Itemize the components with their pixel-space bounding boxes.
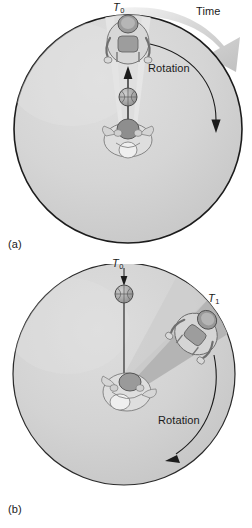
panel-b-caption: (b) [8, 504, 22, 515]
label-rotation-panel-a: Rotation [148, 63, 190, 74]
figure-root: T0 Time Rotation (a) [0, 0, 252, 528]
panel-a-graphic [0, 0, 252, 264]
label-rotation-panel-b: Rotation [158, 415, 200, 426]
label-t1-panel-b: T1 [208, 293, 219, 304]
panel-a-caption: (a) [8, 239, 22, 250]
disk-shading-icon [6, 278, 130, 374]
basketball-icon [119, 88, 137, 106]
basketball-icon [115, 285, 133, 303]
label-t0-panel-a: T0 [113, 2, 124, 13]
panel-a: T0 Time Rotation (a) [0, 0, 252, 264]
label-t0-panel-b: T0 [112, 258, 123, 269]
label-time: Time [196, 6, 220, 17]
panel-b: T0 T1 Rotation (b) [0, 264, 252, 528]
